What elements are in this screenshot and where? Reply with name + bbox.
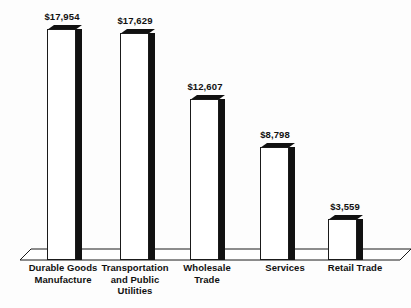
category-label-line: Trade	[157, 274, 257, 286]
bar-2-value-label: $17,629	[95, 15, 175, 26]
bar-chart: $17,954 $17,629 $12,607 $8,798 $3,559 Du…	[0, 0, 411, 308]
bar-2[interactable]	[120, 33, 149, 260]
bar-1-value-label: $17,954	[22, 11, 102, 22]
plot-area: $17,954 $17,629 $12,607 $8,798 $3,559 Du…	[0, 0, 411, 308]
category-label-line: Retail Trade	[305, 262, 405, 274]
bar-4-side-face	[288, 147, 295, 260]
bar-3-value-label: $12,607	[165, 81, 245, 92]
bar-3[interactable]	[190, 99, 219, 260]
bar-4[interactable]	[260, 147, 289, 260]
category-label-line: Utilities	[75, 285, 195, 297]
bar-5[interactable]	[328, 219, 357, 260]
bar-4-value-label: $8,798	[237, 129, 313, 140]
bar-2-side-face	[148, 33, 155, 260]
bar-1-side-face	[75, 29, 82, 260]
bar-1[interactable]	[47, 29, 76, 260]
bar-5-side-face	[356, 219, 363, 260]
category-label-retail-trade: Retail Trade	[305, 262, 405, 274]
bar-3-side-face	[218, 99, 225, 260]
bar-5-value-label: $3,559	[307, 201, 383, 212]
